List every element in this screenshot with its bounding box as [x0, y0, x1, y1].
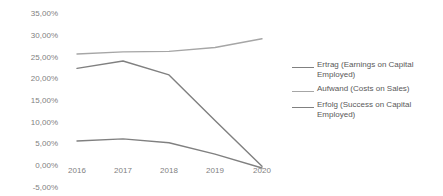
line-chart: 35,00% 30,00% 25,00% 20,00% 15,00% 10,00…: [0, 0, 443, 196]
legend-item[interactable]: Aufwand (Costs on Sales): [292, 84, 443, 96]
x-axis-tick-label: 2016: [57, 166, 97, 176]
series-line: [77, 139, 262, 168]
legend-item-label: Aufwand (Costs on Sales): [314, 84, 410, 94]
legend-line-icon: [292, 103, 314, 112]
series-line: [77, 39, 262, 54]
legend-item[interactable]: Erfolg (Success on Capital Employed): [292, 100, 443, 120]
series-line: [77, 61, 262, 166]
x-axis-tick-label: 2018: [149, 166, 189, 176]
x-axis-tick-label: 2020: [242, 166, 282, 176]
legend-item[interactable]: Ertrag (Earnings on Capital Employed): [292, 60, 443, 80]
chart-legend: Ertrag (Earnings on Capital Employed) Au…: [292, 60, 443, 124]
legend-line-icon: [292, 87, 314, 96]
x-axis-tick-label: 2017: [103, 166, 143, 176]
legend-item-label: Ertrag (Earnings on Capital Employed): [314, 60, 443, 80]
x-axis-tick-label: 2019: [195, 166, 235, 176]
legend-item-label: Erfolg (Success on Capital Employed): [314, 100, 443, 120]
legend-line-icon: [292, 63, 314, 72]
